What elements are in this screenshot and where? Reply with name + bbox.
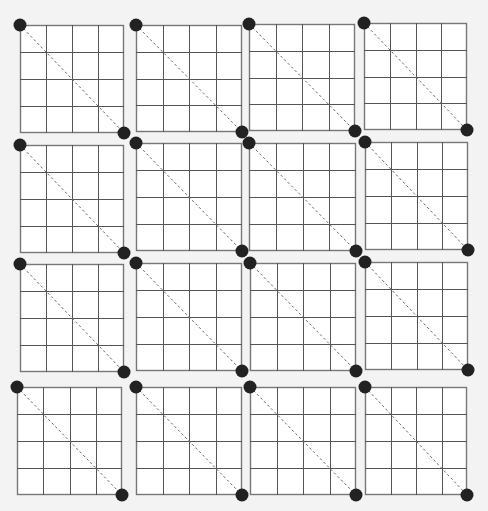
grid-diagram — [0, 0, 488, 511]
grid-panel — [249, 24, 355, 131]
end-dot — [462, 364, 475, 377]
start-dot — [359, 136, 372, 149]
grid-panel — [20, 264, 124, 372]
start-dot — [243, 18, 256, 31]
grid-panel — [250, 387, 356, 495]
start-dot — [244, 381, 257, 394]
grid-panel — [249, 143, 356, 251]
grid-panel — [20, 25, 124, 133]
end-dot — [350, 489, 363, 502]
end-dot — [236, 245, 249, 258]
grid-panel — [250, 263, 356, 371]
grid-panel — [136, 387, 242, 495]
grid-panel — [365, 262, 468, 370]
start-dot — [359, 381, 372, 394]
end-dot — [462, 244, 475, 257]
end-dot — [461, 489, 474, 502]
end-dot — [118, 127, 131, 140]
grid-panel — [136, 263, 242, 371]
grid-panel — [20, 145, 124, 253]
end-dot — [350, 245, 363, 258]
grid-panel — [17, 387, 122, 495]
grid-panel — [365, 387, 467, 495]
start-dot — [130, 257, 143, 270]
grid-panel — [365, 142, 468, 250]
end-dot — [349, 125, 362, 138]
grid-panel — [364, 23, 467, 130]
start-dot — [244, 257, 257, 270]
end-dot — [118, 366, 131, 379]
start-dot — [130, 381, 143, 394]
end-dot — [236, 365, 249, 378]
end-dot — [236, 489, 249, 502]
grid-panel — [136, 143, 242, 251]
start-dot — [130, 137, 143, 150]
end-dot — [236, 126, 249, 139]
end-dot — [350, 365, 363, 378]
start-dot — [130, 19, 143, 32]
end-dot — [461, 124, 474, 137]
start-dot — [11, 381, 24, 394]
end-dot — [118, 247, 131, 260]
start-dot — [14, 19, 27, 32]
start-dot — [359, 256, 372, 269]
start-dot — [14, 139, 27, 152]
start-dot — [14, 258, 27, 271]
end-dot — [116, 489, 129, 502]
start-dot — [358, 17, 371, 30]
grid-panel — [136, 25, 242, 132]
start-dot — [243, 137, 256, 150]
